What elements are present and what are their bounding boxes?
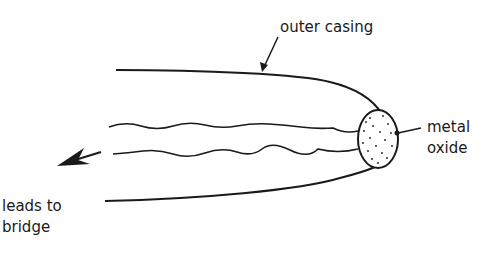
outer-casing-pointer: [264, 37, 278, 67]
label-metal: metal: [427, 118, 470, 136]
label-leads-to: leads to: [2, 197, 62, 215]
label-oxide: oxide: [427, 139, 468, 157]
metal-oxide-bead: [358, 110, 398, 168]
lead-wire-lower: [113, 145, 358, 156]
metal-oxide-pointer: [398, 128, 421, 133]
thermistor-diagram: outer casing metal oxide leads to bridge: [0, 0, 486, 256]
pointer-dot: [395, 131, 400, 136]
label-outer-casing: outer casing: [280, 18, 373, 36]
label-bridge: bridge: [2, 218, 50, 236]
outer-casing-upper: [116, 70, 382, 114]
arrowhead-icon: [260, 62, 268, 72]
lead-wire-upper: [109, 123, 358, 132]
diagram-drawing: [0, 0, 486, 256]
outer-casing-lower: [105, 167, 375, 201]
